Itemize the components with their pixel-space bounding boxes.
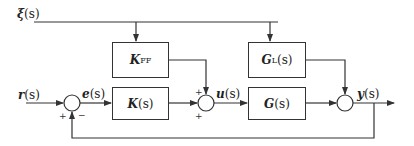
sum-junction-control (198, 95, 214, 111)
error-label: e(s) (82, 88, 105, 100)
gl-to-sum3 (305, 60, 345, 94)
plant-block: G(s) (248, 87, 306, 120)
disturbance-label: ξ(s) (17, 8, 40, 20)
disturbance-model-block: GL(s) (248, 42, 306, 78)
output-label: y(s) (357, 88, 380, 100)
error-sum-minus-sign: − (78, 111, 86, 120)
block-diagram-wires (0, 0, 414, 146)
control-sum-plus-sign-top: + (195, 88, 203, 97)
sum-junction-output (337, 95, 353, 111)
error-sum-plus-sign: + (59, 112, 67, 121)
feedforward-block: KFF (112, 42, 169, 78)
sum-junction-error (64, 95, 80, 111)
reference-label: r(s) (18, 89, 40, 101)
controller-block: K(s) (112, 87, 169, 120)
control-sum-plus-sign-bottom: + (195, 112, 203, 121)
control-label: u(s) (216, 88, 240, 100)
